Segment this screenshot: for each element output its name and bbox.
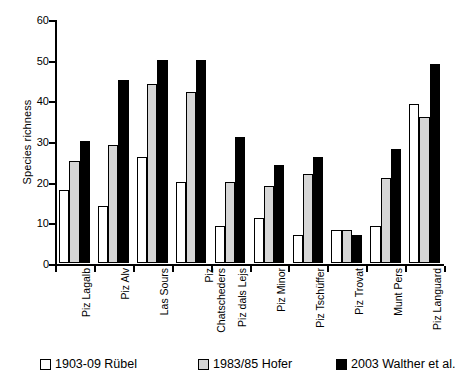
y-axis-tick <box>49 20 55 22</box>
plot-area: 0102030405060 <box>55 20 443 265</box>
legend-label: 1983/85 Hofer <box>213 357 292 371</box>
x-axis-category-label: Piz Tschüffer <box>314 268 326 358</box>
x-axis-category-label: Piz Languard <box>431 268 443 358</box>
bar <box>342 230 352 263</box>
x-axis-tick <box>444 266 446 272</box>
bar <box>419 117 429 263</box>
bar <box>409 104 419 263</box>
bar <box>391 149 401 263</box>
y-axis-tick <box>49 101 55 103</box>
y-axis-tick-label: 20 <box>7 178 49 188</box>
x-axis-category-label: Las Sours <box>158 268 170 358</box>
bar <box>370 226 380 263</box>
bar <box>98 206 108 263</box>
x-axis-category-label: PizChatscheders <box>203 268 227 358</box>
bar <box>118 80 128 263</box>
legend-swatch <box>40 359 51 370</box>
y-axis-tick <box>49 142 55 144</box>
bar <box>352 235 362 263</box>
y-axis-tick <box>49 223 55 225</box>
y-axis-tick-label: 30 <box>7 137 49 147</box>
bar <box>59 190 69 263</box>
bar <box>137 157 147 263</box>
bar <box>80 141 90 263</box>
y-axis-tick-label: 0 <box>7 259 49 269</box>
bar <box>313 157 323 263</box>
x-axis-category-labels: Piz LagalbPiz AlvLas SoursPizChatscheder… <box>55 268 444 348</box>
y-axis-tick <box>49 183 55 185</box>
y-axis-tick <box>49 61 55 63</box>
x-axis-category-label: Piz Trovat <box>353 268 365 358</box>
bar <box>157 60 167 263</box>
bar <box>274 165 284 263</box>
x-axis-category-label: Piz Lagalb <box>80 268 92 358</box>
bar <box>293 235 303 263</box>
legend-swatch <box>198 359 209 370</box>
bar <box>430 64 440 263</box>
bar <box>215 226 225 263</box>
bar <box>235 137 245 263</box>
bar <box>225 182 235 263</box>
chart-legend: 1903-09 Rübel1983/85 Hofer2003 Walther e… <box>40 357 440 379</box>
x-axis-category-label: Munt Pers <box>392 268 404 358</box>
y-axis-tick-label: 40 <box>7 96 49 106</box>
x-axis-category-label: Piz Alv <box>119 268 131 358</box>
bar <box>381 178 391 263</box>
legend-swatch <box>336 359 347 370</box>
bar <box>186 92 196 263</box>
y-axis-tick-label: 60 <box>7 15 49 25</box>
legend-label: 1903-09 Rübel <box>55 357 137 371</box>
bar <box>196 60 206 263</box>
bar <box>254 218 264 263</box>
x-axis-category-label: Piz dals Lejs <box>236 268 248 358</box>
legend-item[interactable]: 1903-09 Rübel <box>40 357 137 371</box>
y-axis-tick-label: 50 <box>7 56 49 66</box>
x-axis-category-label: Piz Minor <box>275 268 287 358</box>
bar <box>331 230 341 263</box>
legend-item[interactable]: 1983/85 Hofer <box>198 357 292 371</box>
legend-item[interactable]: 2003 Walther et al. <box>336 357 455 371</box>
bar <box>176 182 186 263</box>
legend-label: 2003 Walther et al. <box>351 357 455 371</box>
bar <box>69 161 79 263</box>
y-axis-line <box>55 20 57 266</box>
y-axis-tick-label: 10 <box>7 218 49 228</box>
bar <box>303 174 313 263</box>
bar <box>147 84 157 263</box>
bar <box>108 145 118 263</box>
bar <box>264 186 274 263</box>
